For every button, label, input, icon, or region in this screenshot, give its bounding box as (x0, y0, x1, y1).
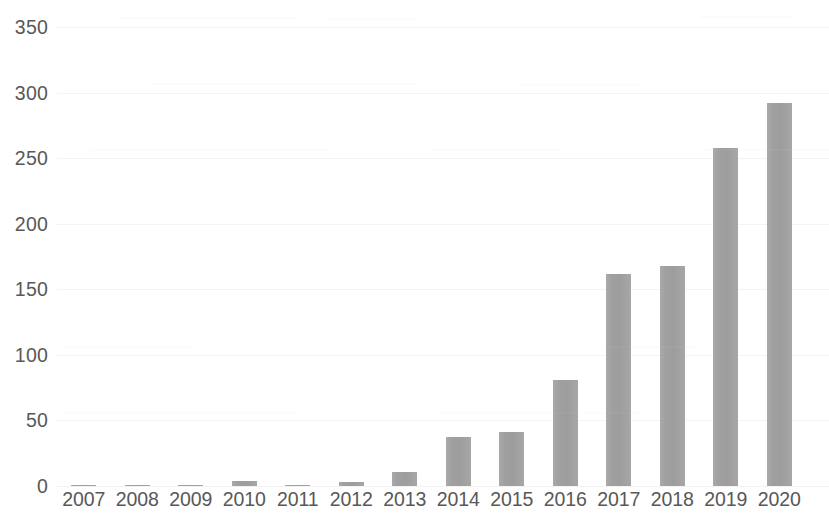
bar-slot (539, 8, 593, 486)
x-tick-label: 2018 (646, 486, 700, 512)
bar[interactable] (446, 437, 471, 486)
bar[interactable] (713, 148, 738, 486)
x-tick-label: 2011 (271, 486, 325, 512)
x-tick-label: 2020 (753, 486, 807, 512)
x-tick-label: 2008 (111, 486, 165, 512)
bar-slot (592, 8, 646, 486)
bar-series (57, 8, 829, 486)
y-tick-label: 350 (15, 16, 48, 39)
bar[interactable] (660, 266, 685, 486)
bar[interactable] (553, 380, 578, 486)
bar-slot (699, 8, 753, 486)
x-tick-label: 2016 (539, 486, 593, 512)
bar-slot (432, 8, 486, 486)
x-tick-label: 2019 (699, 486, 753, 512)
x-tick-label: 2015 (485, 486, 539, 512)
bar[interactable] (606, 274, 631, 486)
x-tick-label: 2017 (592, 486, 646, 512)
y-tick-label: 250 (15, 147, 48, 170)
bar-slot (111, 8, 165, 486)
y-tick-label: 50 (26, 409, 48, 432)
bar-slot (485, 8, 539, 486)
y-tick-label: 300 (15, 81, 48, 104)
bar[interactable] (767, 103, 792, 486)
bar-chart: 050100150200250300350 200720082009201020… (0, 0, 829, 514)
y-tick-label: 200 (15, 212, 48, 235)
x-axis: 2007200820092010201120122013201420152016… (57, 486, 829, 514)
y-axis: 050100150200250300350 (0, 8, 48, 486)
x-tick-label: 2007 (57, 486, 111, 512)
y-tick-label: 150 (15, 278, 48, 301)
x-tick-label: 2013 (378, 486, 432, 512)
bar[interactable] (499, 432, 524, 486)
bar-slot (164, 8, 218, 486)
bar-slot (325, 8, 379, 486)
bar-slot (378, 8, 432, 486)
bar-slot (57, 8, 111, 486)
bar-slot (753, 8, 807, 486)
bar-slot (218, 8, 272, 486)
y-tick-label: 100 (15, 343, 48, 366)
x-tick-label: 2012 (325, 486, 379, 512)
bar-slot (646, 8, 700, 486)
bar[interactable] (392, 472, 417, 486)
bar-slot (271, 8, 325, 486)
x-tick-label: 2010 (218, 486, 272, 512)
x-tick-label: 2009 (164, 486, 218, 512)
y-tick-label: 0 (37, 475, 48, 498)
x-tick-label: 2014 (432, 486, 486, 512)
